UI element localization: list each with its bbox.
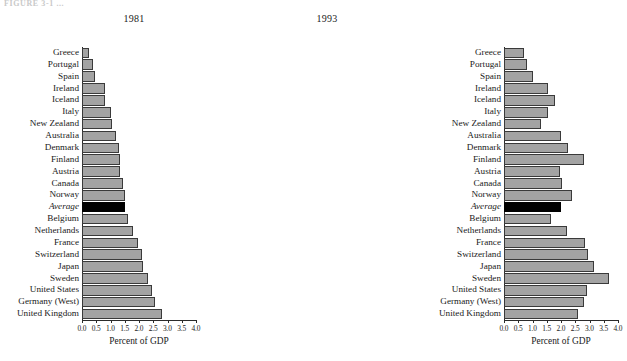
x-axis-tick-label: 3.5 — [177, 324, 186, 333]
chart-panel-1981: 1981 0.00.51.01.52.02.53.03.54.0GreecePo… — [0, 0, 212, 361]
bar-row: Austria — [504, 166, 618, 178]
x-axis-tick-label: 2.0 — [557, 324, 566, 333]
bar — [82, 309, 162, 320]
bar — [82, 190, 125, 201]
bar-row: Canada — [504, 178, 618, 190]
bar — [82, 48, 89, 59]
bar-row: Netherlands — [504, 225, 618, 237]
bar-row: United States — [82, 284, 196, 296]
bar — [504, 238, 585, 249]
bar — [504, 261, 594, 272]
bar — [504, 285, 587, 296]
x-axis-tick-label: 1.0 — [106, 324, 115, 333]
bar-row: Belgium — [82, 213, 196, 225]
bar — [504, 297, 584, 308]
bar-row: New Zealand — [82, 118, 196, 130]
x-axis-tick-label: 0.0 — [78, 324, 87, 333]
bar — [82, 238, 138, 249]
bar-average — [504, 202, 561, 213]
category-label: United Kingdom — [439, 307, 501, 320]
x-axis-tick-label: 4.0 — [192, 324, 201, 333]
bar-row: France — [82, 237, 196, 249]
bar-average — [82, 202, 125, 213]
bar-row: Australia — [504, 130, 618, 142]
bar — [82, 226, 133, 237]
bar-row: Denmark — [82, 142, 196, 154]
x-axis-tick-label: 2.5 — [149, 324, 158, 333]
bar — [504, 178, 562, 189]
bar-row: Austria — [82, 166, 196, 178]
bar-row: Average — [82, 201, 196, 213]
bar-row: Germany (West) — [504, 296, 618, 308]
bar — [82, 249, 142, 260]
bar-row: Greece — [504, 47, 618, 59]
bar-row: Australia — [82, 130, 196, 142]
x-axis-tick-label: 0.5 — [92, 324, 101, 333]
x-axis-tick-label: 3.0 — [585, 324, 594, 333]
x-axis-tick-label: 2.0 — [135, 324, 144, 333]
bar — [504, 48, 524, 59]
bar — [82, 107, 111, 118]
bar — [82, 178, 123, 189]
bar — [504, 166, 560, 177]
bar — [82, 59, 93, 70]
bar — [82, 71, 95, 82]
bar — [504, 59, 527, 70]
bar — [504, 131, 561, 142]
bar — [504, 119, 541, 130]
bar — [82, 285, 152, 296]
bar-row: Japan — [504, 261, 618, 273]
bar-row: Greece — [82, 47, 196, 59]
bar-row: Norway — [504, 189, 618, 201]
x-axis-tick — [196, 320, 197, 323]
bar-row: Norway — [82, 189, 196, 201]
x-axis-tick-label: 4.0 — [614, 324, 623, 333]
bar — [504, 309, 578, 320]
plot-area-1993: 0.00.51.01.52.02.53.03.54.0GreecePortuga… — [504, 47, 618, 320]
bar — [82, 261, 143, 272]
bar-row: Switzerland — [82, 249, 196, 261]
chart-panel-1993: 1993 0.00.51.01.52.02.53.03.54.0GreecePo… — [211, 0, 423, 361]
bar — [504, 95, 555, 106]
bar-row: Italy — [82, 106, 196, 118]
bar-row: United Kingdom — [82, 308, 196, 320]
bar — [504, 143, 568, 154]
bar-row: Spain — [82, 71, 196, 83]
bar — [82, 297, 155, 308]
x-axis-tick-label: 1.5 — [120, 324, 129, 333]
bar — [82, 166, 120, 177]
category-label: United Kingdom — [17, 307, 79, 320]
bar — [504, 107, 548, 118]
bar-row: France — [504, 237, 618, 249]
bar — [82, 119, 112, 130]
bar-row: Germany (West) — [82, 296, 196, 308]
x-axis-title-1993: Percent of GDP — [491, 336, 627, 346]
bar — [82, 214, 128, 225]
bar-row: Japan — [82, 261, 196, 273]
bar — [82, 83, 105, 94]
bar-row: Ireland — [504, 83, 618, 95]
chart-title-1993: 1993 — [211, 13, 433, 24]
bar-row: Sweden — [504, 273, 618, 285]
bar — [82, 143, 119, 154]
bar-row: Iceland — [504, 94, 618, 106]
bar-row: New Zealand — [504, 118, 618, 130]
bar — [82, 131, 116, 142]
bar-row: Finland — [82, 154, 196, 166]
bar — [82, 154, 120, 165]
bar — [82, 273, 148, 284]
x-axis-tick-label: 3.0 — [163, 324, 172, 333]
bar-row: Denmark — [504, 142, 618, 154]
bar-row: Average — [504, 201, 618, 213]
x-axis-tick — [618, 320, 619, 323]
bar — [504, 226, 567, 237]
bar — [504, 71, 533, 82]
x-axis-tick-label: 1.5 — [542, 324, 551, 333]
bar-row: Iceland — [82, 94, 196, 106]
bar-row: Netherlands — [82, 225, 196, 237]
bar-row: Italy — [504, 106, 618, 118]
bar-row: Ireland — [82, 83, 196, 95]
bar-row: Portugal — [504, 59, 618, 71]
bar-row: Finland — [504, 154, 618, 166]
